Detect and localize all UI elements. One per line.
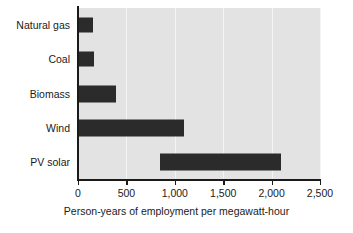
x-axis-tick-label: 2,000 [258,187,284,199]
x-axis-tick-label: 1,000 [162,187,188,199]
x-axis-tick-label: 2,500 [307,187,333,199]
x-axis-tick-label: 0 [75,187,81,199]
gridline [126,8,127,179]
x-axis-tick [175,180,176,185]
gridline [320,8,321,179]
category-label: Natural gas [16,20,70,31]
bar-chart: Natural gasCoalBiomassWindPV solar 05001… [0,0,353,233]
y-axis-line [77,6,79,180]
bar [78,85,116,102]
bar [78,119,184,136]
x-axis-tick [272,180,273,185]
x-axis-tick-label: 500 [118,187,136,199]
category-label: Coal [48,54,70,65]
category-label: PV solar [30,156,70,167]
category-label: Wind [46,122,70,133]
x-axis-tick-label: 1,500 [210,187,236,199]
category-label: Biomass [30,88,70,99]
x-axis-tick [126,180,127,185]
bar [78,18,93,33]
plot-area [78,8,320,179]
x-axis-tick [223,180,224,185]
x-axis-line [77,179,321,181]
x-axis-tick [320,180,321,185]
bar [160,153,281,170]
x-axis-tick [78,180,79,185]
bar [78,52,94,67]
category-axis-labels: Natural gasCoalBiomassWindPV solar [0,8,74,179]
x-axis-title: Person-years of employment per megawatt-… [0,205,353,217]
